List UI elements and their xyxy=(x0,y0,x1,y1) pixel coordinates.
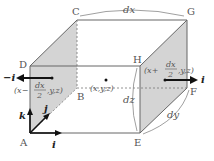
svg-text:dx: dx xyxy=(35,81,45,90)
center-point-label: (x,y,z) xyxy=(90,84,114,93)
i-label: i xyxy=(201,74,205,85)
vertex-A: A xyxy=(19,137,28,148)
vertex-B: B xyxy=(77,91,84,102)
axis-i-label: i xyxy=(52,139,56,150)
vertex-H: H xyxy=(133,54,142,65)
i-arrowhead xyxy=(190,76,198,84)
vertex-E: E xyxy=(134,137,141,148)
right-face xyxy=(140,20,187,133)
axis-i-arrowhead xyxy=(55,130,62,136)
svg-text:(x−: (x− xyxy=(14,86,28,95)
minus-i-label: −i xyxy=(3,72,15,83)
dy-label: dy xyxy=(167,109,179,120)
minus-i-arrowhead xyxy=(16,74,24,82)
axis-k-label: k xyxy=(19,110,26,121)
control-volume-diagram: C G D H B F A E dx dz dy (x,y,z) −i (x− … xyxy=(0,0,214,161)
svg-text:,y,z): ,y,z) xyxy=(47,86,63,95)
vertex-D: D xyxy=(19,59,27,70)
svg-text:2: 2 xyxy=(167,70,173,79)
center-dot xyxy=(105,79,108,82)
vertex-F: F xyxy=(190,86,197,97)
svg-text:2: 2 xyxy=(36,91,42,100)
dz-label: dz xyxy=(123,94,135,105)
svg-text:(x+: (x+ xyxy=(144,66,158,75)
dx-label: dx xyxy=(123,4,135,15)
left-face xyxy=(30,20,77,133)
svg-text:,y,z): ,y,z) xyxy=(178,66,194,75)
vertex-C: C xyxy=(72,6,80,17)
vertex-G: G xyxy=(187,6,195,17)
svg-text:dx: dx xyxy=(166,60,176,69)
